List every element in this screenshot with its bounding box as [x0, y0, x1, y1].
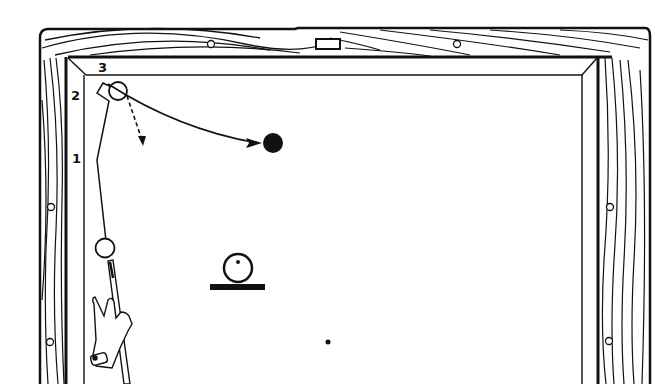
dashed-arrowhead-icon: [138, 136, 146, 146]
object-ball-curve-path: [108, 84, 258, 143]
ball-side-view-icon: [210, 254, 265, 290]
arrowhead-icon: [246, 138, 262, 148]
billiards-table-diagram: [0, 0, 655, 384]
nameplate: [316, 39, 340, 49]
diamond-marker-left-1: [48, 204, 55, 211]
top-wood-rail: [40, 28, 650, 384]
diamond-marker-right-1: [607, 204, 614, 211]
cue-ball: [96, 239, 115, 258]
cue-ball-path: [97, 83, 118, 241]
rail-label-2: 2: [71, 89, 80, 102]
table-spot: [326, 340, 331, 345]
diamond-marker-left-2: [47, 339, 54, 346]
rail-label-1: 1: [72, 152, 81, 165]
diamond-marker-right-2: [606, 338, 613, 345]
diamond-marker-top-1: [208, 41, 215, 48]
rail-label-3: 3: [98, 61, 107, 74]
diamond-marker-top-2: [454, 41, 461, 48]
right-wood-rail: [598, 57, 645, 384]
left-wood-rail: [42, 57, 66, 384]
target-ball: [263, 133, 283, 153]
